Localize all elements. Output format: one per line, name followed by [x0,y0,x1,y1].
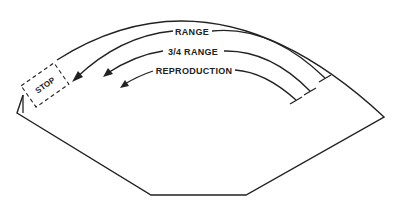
reproduction-label: REPRODUCTION [156,66,233,76]
stop-label: STOP [34,75,57,95]
range-label: RANGE [175,27,209,37]
range-diagram: STOP RANGE 3/4 RANGE REPRODUCTION [0,0,396,204]
arrowhead-icon [120,80,129,88]
reproduction-arrow: REPRODUCTION [120,66,302,104]
range-end-tick [319,75,331,82]
three-quarter-range-end-tick [304,88,316,95]
stop-box: STOP [21,63,69,107]
reproduction-end-tick [290,97,302,104]
three-quarter-range-label: 3/4 RANGE [168,47,218,57]
arrowhead-icon [103,68,113,77]
